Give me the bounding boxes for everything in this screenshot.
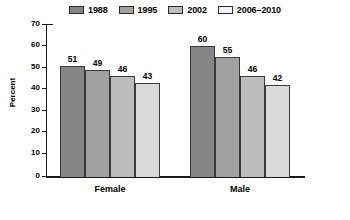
y-tick-0: 0 (22, 172, 40, 180)
bar-value-male-2002: 46 (240, 65, 265, 74)
legend-item-1988: 1988 (69, 6, 108, 15)
legend-label-1995: 1995 (138, 6, 158, 15)
y-tick-20: 20 (22, 127, 40, 135)
legend-item-2006-2010: 2006–2010 (218, 6, 281, 15)
bar-chart: 1988 1995 2002 2006–2010 Percent 70 60 5… (0, 0, 350, 220)
legend-item-2002: 2002 (168, 6, 207, 15)
bar-male-2002[interactable] (240, 76, 265, 177)
y-tick-60: 60 (22, 41, 40, 49)
x-category-label-male: Male (190, 184, 290, 194)
y-tick-50: 50 (22, 63, 40, 71)
bar-female-2006-2010[interactable] (135, 83, 160, 177)
legend-swatch-1995 (119, 6, 134, 14)
legend-swatch-1988 (69, 6, 84, 14)
bar-value-male-1995: 55 (215, 46, 240, 55)
chart-legend: 1988 1995 2002 2006–2010 (0, 3, 350, 17)
bar-value-female-2006-2010: 43 (135, 72, 160, 81)
bar-value-female-1995: 49 (85, 59, 110, 68)
bar-male-1988[interactable] (190, 46, 215, 177)
y-tick-10: 10 (22, 149, 40, 157)
x-category-label-female: Female (60, 184, 160, 194)
bar-group-female: 51 49 46 43 (60, 24, 160, 177)
bar-male-1995[interactable] (215, 57, 240, 177)
y-tick-30: 30 (22, 106, 40, 114)
bar-wrap-female-1995: 49 (85, 24, 110, 177)
bar-female-1988[interactable] (60, 66, 85, 178)
legend-swatch-2002 (168, 6, 183, 14)
bar-wrap-male-1995: 55 (215, 24, 240, 177)
y-axis-label: Percent (8, 63, 17, 123)
bar-group-male: 60 55 46 42 (190, 24, 290, 177)
legend-label-1988: 1988 (88, 6, 108, 15)
bar-wrap-male-2002: 46 (240, 24, 265, 177)
bar-value-female-2002: 46 (110, 65, 135, 74)
legend-label-2002: 2002 (187, 6, 207, 15)
legend-swatch-2006-2010 (218, 6, 233, 14)
y-tick-70: 70 (22, 20, 40, 28)
plot-area: 51 49 46 43 60 (46, 24, 305, 177)
y-axis-tick-labels: 70 60 50 40 30 20 10 0 (22, 0, 40, 220)
bar-wrap-female-2006-2010: 43 (135, 24, 160, 177)
bar-wrap-male-2006-2010: 42 (265, 24, 290, 177)
bar-value-male-2006-2010: 42 (265, 74, 290, 83)
legend-item-1995: 1995 (119, 6, 158, 15)
bar-female-1995[interactable] (85, 70, 110, 177)
bar-wrap-female-1988: 51 (60, 24, 85, 177)
bar-female-2002[interactable] (110, 76, 135, 177)
bar-series-container: 51 49 46 43 60 (46, 24, 305, 177)
bar-male-2006-2010[interactable] (265, 85, 290, 177)
bar-wrap-male-1988: 60 (190, 24, 215, 177)
bar-value-female-1988: 51 (60, 55, 85, 64)
legend-label-2006-2010: 2006–2010 (237, 6, 281, 15)
bar-value-male-1988: 60 (190, 35, 215, 44)
y-tick-40: 40 (22, 84, 40, 92)
bar-wrap-female-2002: 46 (110, 24, 135, 177)
